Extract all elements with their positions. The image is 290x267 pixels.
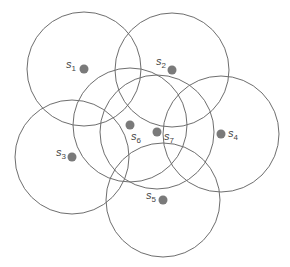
sensor-label-s2: s2 — [156, 55, 167, 70]
sensor-nodes — [68, 65, 226, 205]
coverage-circles — [15, 12, 279, 257]
sensor-label-s6: s6 — [131, 130, 142, 145]
sensor-node-s6 — [126, 121, 135, 130]
sensor-node-s5 — [159, 196, 168, 205]
sensor-node-s1 — [80, 65, 89, 74]
sensor-coverage-diagram: s1s2s3s4s5s6s7 — [0, 0, 290, 267]
sensor-label-s5: s5 — [146, 189, 157, 204]
sensor-node-s2 — [168, 66, 177, 75]
sensor-label-s1: s1 — [66, 58, 77, 73]
sensor-node-s7 — [153, 128, 162, 137]
sensor-node-s4 — [217, 130, 226, 139]
sensor-node-s3 — [68, 153, 77, 162]
sensor-label-s3: s3 — [56, 146, 67, 161]
sensor-label-s4: s4 — [228, 127, 239, 142]
